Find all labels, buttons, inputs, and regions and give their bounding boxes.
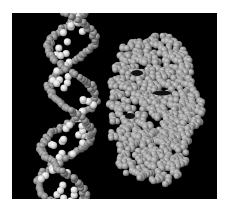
dna-helix — [33, 13, 101, 199]
molecular-image — [12, 13, 217, 199]
molecule-rendering — [12, 13, 217, 199]
protein-globule — [106, 33, 206, 188]
